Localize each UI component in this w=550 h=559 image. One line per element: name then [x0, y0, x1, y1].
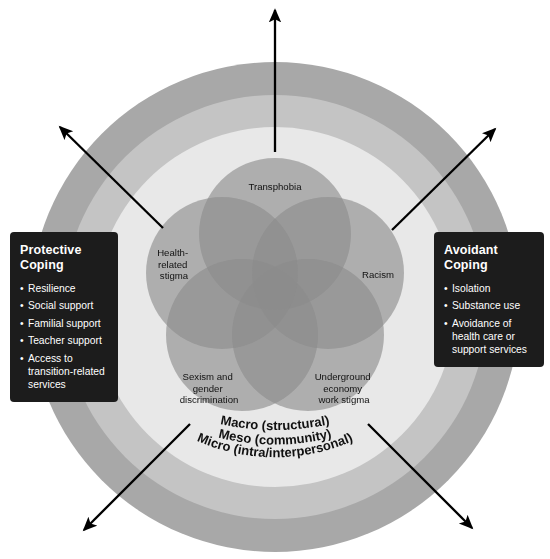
avoidant-coping-list: • Isolation • Substance use • Avoidance …: [444, 282, 535, 356]
list-item: • Familial support: [20, 317, 109, 330]
protective-coping-title-line-2: Coping: [20, 258, 64, 272]
protective-item-label: Social support: [28, 300, 93, 311]
protective-coping-title-line-1: Protective: [20, 243, 81, 257]
protective-item-label: Familial support: [28, 318, 101, 329]
avoidant-item-label: Substance use: [452, 300, 520, 311]
bullet-icon: •: [444, 299, 448, 312]
bullet-icon: •: [444, 282, 448, 295]
bullet-icon: •: [20, 299, 24, 312]
avoidant-coping-box: Avoidant Coping • Isolation • Substance …: [434, 232, 544, 367]
protective-item-label: Access to transition-related services: [28, 353, 105, 390]
avoidant-item-label: Avoidance of health care or support serv…: [452, 318, 527, 355]
diagram-canvas: Transphobia Racism Underground economy w…: [0, 0, 550, 559]
bullet-icon: •: [20, 317, 24, 330]
list-item: • Substance use: [444, 299, 535, 312]
list-item: • Access to transition-related services: [20, 352, 109, 391]
avoidant-item-label: Isolation: [452, 283, 490, 294]
bullet-icon: •: [20, 334, 24, 347]
avoidant-coping-title-line-2: Coping: [444, 258, 488, 272]
bullet-icon: •: [20, 282, 24, 295]
petal-label-underground-economy: Underground economy work stigma: [315, 371, 374, 405]
petal-label-health-stigma: Health- related stigma: [157, 247, 191, 281]
list-item: • Teacher support: [20, 334, 109, 347]
protective-coping-list: • Resilience • Social support • Familial…: [20, 282, 109, 391]
list-item: • Social support: [20, 299, 109, 312]
protective-coping-title: Protective Coping: [20, 243, 109, 273]
bullet-icon: •: [444, 317, 448, 330]
petal-label-transphobia: Transphobia: [249, 181, 303, 192]
petal-label-racism: Racism: [362, 269, 394, 280]
protective-item-label: Resilience: [28, 283, 76, 294]
list-item: • Avoidance of health care or support se…: [444, 317, 535, 356]
avoidant-coping-title: Avoidant Coping: [444, 243, 535, 273]
list-item: • Isolation: [444, 282, 535, 295]
bullet-icon: •: [20, 352, 24, 365]
protective-item-label: Teacher support: [28, 335, 102, 346]
protective-coping-box: Protective Coping • Resilience • Social …: [10, 232, 118, 402]
list-item: • Resilience: [20, 282, 109, 295]
avoidant-coping-title-line-1: Avoidant: [444, 243, 498, 257]
